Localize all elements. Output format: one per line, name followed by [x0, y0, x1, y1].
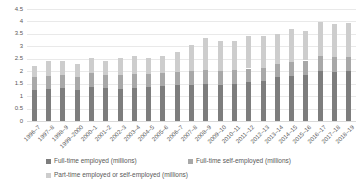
bar-segment — [218, 41, 223, 71]
bar-segment — [246, 69, 251, 83]
bar-segment — [318, 22, 323, 56]
bar-segment — [160, 73, 165, 86]
stacked-bar-chart: 00.511.522.533.544.5 1996–71997–81998–91… — [0, 0, 360, 192]
gridline — [27, 9, 356, 10]
bar-segment — [132, 88, 137, 121]
bar-segment — [118, 75, 123, 89]
bar-segment — [146, 87, 151, 121]
y-axis-tick-label: 0 — [0, 118, 23, 125]
bar-segment — [203, 38, 208, 70]
bar-segment — [89, 73, 94, 87]
bar-segment — [75, 90, 80, 121]
bar-segment — [261, 81, 266, 121]
plot-area — [27, 9, 356, 122]
y-axis-tick-label: 4.5 — [0, 6, 23, 13]
y-axis-tick-label: 0.5 — [0, 105, 23, 112]
y-axis-tick-label: 2.5 — [0, 55, 23, 62]
bar-segment — [60, 75, 65, 88]
bar-segment — [189, 85, 194, 121]
bar-segment — [303, 75, 308, 121]
bar-segment — [289, 62, 294, 76]
bar-segment — [246, 36, 251, 68]
bar-segment — [318, 71, 323, 121]
legend-label: Full-time employed (millions) — [54, 157, 137, 165]
y-axis-tick-label: 2 — [0, 68, 23, 75]
bar-segment — [175, 85, 180, 121]
bar-segment — [261, 36, 266, 68]
bar-segment — [332, 72, 337, 121]
bar-segment — [132, 56, 137, 74]
legend: Full-time employed (millions)Full-time s… — [46, 157, 291, 179]
y-axis: 00.511.522.533.544.5 — [0, 0, 23, 130]
bar-segment — [32, 77, 37, 89]
bar-segment — [246, 82, 251, 121]
gridline — [27, 21, 356, 22]
bar-segment — [60, 61, 65, 75]
bar-segment — [32, 66, 37, 77]
bar-segment — [189, 71, 194, 84]
bar-segment — [60, 88, 65, 121]
bar-segment — [103, 75, 108, 88]
y-axis-tick-label: 3 — [0, 43, 23, 50]
bar-segment — [332, 57, 337, 71]
legend-item: Full-time employed (millions) — [46, 157, 188, 165]
bar-segment — [261, 68, 266, 81]
bar-segment — [289, 76, 294, 121]
bar-segment — [189, 45, 194, 72]
bar-segment — [103, 88, 108, 121]
bar-segment — [75, 77, 80, 90]
bar-segment — [303, 31, 308, 60]
bar-segment — [346, 57, 351, 71]
bar-segment — [146, 58, 151, 74]
bar-segment — [146, 74, 151, 87]
bar-segment — [160, 56, 165, 73]
bar-segment — [75, 64, 80, 76]
legend-swatch-icon — [46, 159, 51, 164]
bar-segment — [232, 41, 237, 70]
bar-segment — [160, 86, 165, 121]
y-axis-tick-label: 3.5 — [0, 30, 23, 37]
bar-segment — [103, 61, 108, 75]
bar-segment — [346, 71, 351, 121]
legend-item: Part-time employed or self-employed (mil… — [46, 171, 188, 179]
legend-swatch-icon — [46, 173, 51, 178]
bar-segment — [289, 29, 294, 61]
bar-segment — [89, 87, 94, 121]
bar-segment — [132, 74, 137, 88]
bar-segment — [275, 77, 280, 121]
bar-segment — [275, 64, 280, 78]
y-axis-tick-label: 4 — [0, 18, 23, 25]
bar-segment — [89, 58, 94, 73]
bar-segment — [46, 61, 51, 75]
legend-label: Part-time employed or self-employed (mil… — [54, 171, 188, 179]
legend-label: Full-time self-employed (millions) — [196, 157, 291, 165]
bar-segment — [303, 61, 308, 75]
bar-segment — [118, 89, 123, 121]
bar-segment — [232, 84, 237, 121]
legend-swatch-icon — [188, 159, 193, 164]
bar-segment — [218, 85, 223, 121]
bar-segment — [46, 76, 51, 89]
x-axis: 1996–71997–81998–91999–20002000–12001–22… — [27, 121, 356, 155]
bar-segment — [332, 24, 337, 57]
legend-item: Full-time self-employed (millions) — [188, 157, 291, 165]
bar-segment — [203, 70, 208, 83]
bar-segment — [275, 34, 280, 64]
bar-segment — [175, 72, 180, 85]
bar-segment — [232, 70, 237, 83]
bar-segment — [118, 58, 123, 75]
bar-segment — [175, 52, 180, 72]
bar-segment — [203, 84, 208, 121]
y-axis-tick-label: 1 — [0, 93, 23, 100]
y-axis-tick-label: 1.5 — [0, 80, 23, 87]
bar-segment — [346, 23, 351, 57]
bar-segment — [218, 71, 223, 84]
bar-segment — [32, 90, 37, 121]
bar-segment — [46, 89, 51, 121]
bar-segment — [318, 56, 323, 71]
